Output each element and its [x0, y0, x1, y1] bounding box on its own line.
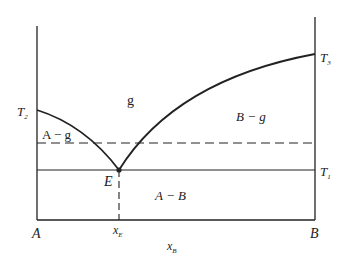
x-axis-label: xB — [166, 239, 177, 255]
phase-diagram: T2 T3 T1 g A − g B − g A − B E A B xE xB — [0, 0, 351, 264]
b-gas-region-label: B − g — [236, 109, 266, 124]
eutectic-point — [116, 167, 121, 172]
t3-label: T3 — [320, 50, 331, 67]
a-gas-region-label: A − g — [42, 127, 72, 142]
eutectic-point-label: E — [103, 174, 113, 189]
gas-region-label: g — [127, 93, 134, 108]
eutectic-composition-label: xE — [112, 223, 123, 239]
t1-label: T1 — [320, 164, 331, 181]
component-b-label: B — [310, 226, 319, 241]
a-b-region-label: A − B — [154, 188, 186, 203]
t2-label: T2 — [17, 104, 28, 121]
liquidus-b-curve — [119, 54, 315, 170]
component-a-label: A — [31, 226, 41, 241]
